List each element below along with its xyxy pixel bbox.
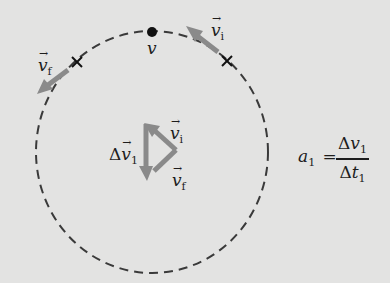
- label-vf-left: →vf: [38, 57, 52, 77]
- label-vf-triangle: →vf: [172, 172, 186, 192]
- equation-fraction: Δv1 Δt1: [336, 133, 369, 185]
- circular-path: [36, 31, 268, 273]
- object-dot: [147, 27, 157, 37]
- diagram-graphics: [0, 0, 390, 283]
- label-v-top: v: [147, 40, 157, 57]
- label-delta-v1: Δ→v1: [109, 146, 138, 166]
- label-vi-top: →vi: [211, 22, 224, 42]
- equation-denominator: Δt1: [336, 162, 369, 185]
- label-vi-triangle: →vi: [170, 125, 183, 145]
- marker-right-x-icon: [222, 56, 232, 66]
- diagram-canvas: v →vi →vf →vi →vf Δ→v1 a1 = Δv1 Δt1: [0, 0, 390, 283]
- equation-numerator: Δv1: [336, 133, 369, 156]
- equation-lhs: a1 =: [298, 148, 337, 168]
- fraction-bar: [336, 158, 369, 160]
